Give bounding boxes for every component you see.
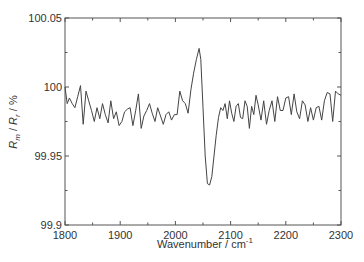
y-tick-label: 100 (44, 81, 62, 93)
data-series-line (65, 48, 341, 185)
plot-frame (65, 18, 341, 225)
x-tick-label: 2200 (274, 229, 298, 241)
plot-area-border (65, 18, 341, 225)
line-chart: 180019002000210022002300 99.999.95100100… (0, 0, 364, 262)
y-tick-label: 100.05 (28, 12, 62, 24)
y-tick-label: 99.95 (34, 150, 62, 162)
y-axis-title: Rm / Rr / % (7, 95, 22, 149)
x-tick-label: 2300 (329, 229, 353, 241)
x-tick-label: 1900 (108, 229, 132, 241)
y-axis-tick-labels: 99.999.95100100.05 (28, 12, 62, 231)
y-tick-label: 99.9 (41, 219, 62, 231)
x-axis-title: Wavenumber / cm-1 (157, 236, 254, 250)
axis-ticks (65, 18, 341, 225)
